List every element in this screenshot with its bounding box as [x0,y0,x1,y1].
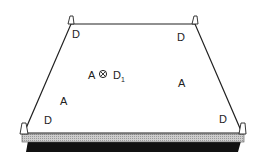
post-icon-bottom-right [239,123,246,134]
label-left-a: A [60,95,68,107]
base-plate [22,134,244,142]
base-shadow [26,141,241,152]
label-top-left: D [72,28,80,40]
label-top-right: D [177,31,185,43]
label-center-d: D1 [113,69,125,83]
trapezoid-diagram: D D A D1 A A D D [0,0,262,158]
post-icon-top-right [192,16,198,24]
label-right-a: A [178,77,186,89]
circled-cross-marker-icon [99,70,106,77]
post-icon-bottom-left [20,123,28,134]
label-center-a: A [88,69,96,81]
label-bottom-right: D [219,113,227,125]
label-bottom-left: D [44,114,52,126]
trapezoid-outline [24,24,242,133]
post-icon-top-left [68,16,74,24]
